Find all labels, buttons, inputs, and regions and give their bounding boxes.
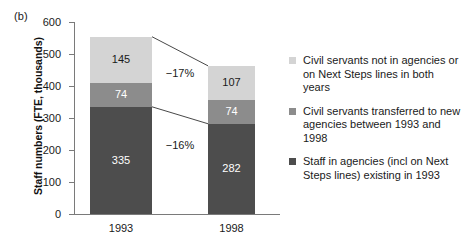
- y-axis-tick: 600: [69, 22, 74, 23]
- y-axis-tick: 500: [69, 54, 74, 55]
- bar-segment-mid: 74: [90, 83, 152, 107]
- y-axis-tick-label: 600: [43, 17, 61, 28]
- y-axis-line: [74, 22, 75, 214]
- delta-label: −16%: [166, 139, 194, 151]
- panel-letter: (b): [14, 10, 28, 22]
- bar-1993: 33574145: [90, 22, 152, 214]
- legend-item-label: Civil servants not in agencies or on Nex…: [303, 54, 461, 95]
- bar-segment-mid: 74: [208, 100, 255, 124]
- y-axis-tick: 200: [69, 150, 74, 151]
- legend-item: Civil servants transferred to new agenci…: [289, 105, 461, 146]
- legend-swatch-icon: [289, 57, 296, 64]
- x-axis-line: [74, 214, 280, 215]
- y-axis-tick-label: 100: [43, 177, 61, 188]
- y-axis-tick: 100: [69, 182, 74, 183]
- y-axis-tick-label: 400: [43, 81, 61, 92]
- legend-item-label: Staff in agencies (incl on Next Steps li…: [303, 155, 461, 182]
- y-axis-tick: 300: [69, 118, 74, 119]
- bar-1998: 28274107: [208, 22, 255, 214]
- bar-segment-bottom: 282: [208, 124, 255, 214]
- y-axis-tick: 400: [69, 86, 74, 87]
- plot-area: 0100200300400500600 3357414528274107 −17…: [74, 22, 280, 214]
- y-axis-tick-label: 0: [55, 209, 61, 220]
- legend-swatch-icon: [289, 108, 296, 115]
- figure-panel-b: (b) Staff numbers (FTE, thousands) 01002…: [0, 0, 465, 249]
- legend-item-label: Civil servants transferred to new agenci…: [303, 105, 461, 146]
- y-axis-tick: 0: [69, 214, 74, 215]
- legend-item: Civil servants not in agencies or on Nex…: [289, 54, 461, 95]
- y-axis-tick-label: 200: [43, 145, 61, 156]
- bar-segment-bottom: 335: [90, 107, 152, 214]
- legend-item: Staff in agencies (incl on Next Steps li…: [289, 155, 461, 182]
- bar-segment-top: 145: [90, 37, 152, 83]
- delta-label: −17%: [166, 67, 194, 79]
- legend-swatch-icon: [289, 158, 296, 165]
- y-axis-tick-label: 500: [43, 49, 61, 60]
- connector-line: [152, 37, 208, 66]
- connector-line: [152, 107, 208, 124]
- y-axis-tick-label: 300: [43, 113, 61, 124]
- bar-segment-top: 107: [208, 66, 255, 100]
- legend: Civil servants not in agencies or on Nex…: [289, 54, 461, 192]
- x-axis-label: 1998: [219, 222, 243, 234]
- x-axis-label: 1993: [109, 222, 133, 234]
